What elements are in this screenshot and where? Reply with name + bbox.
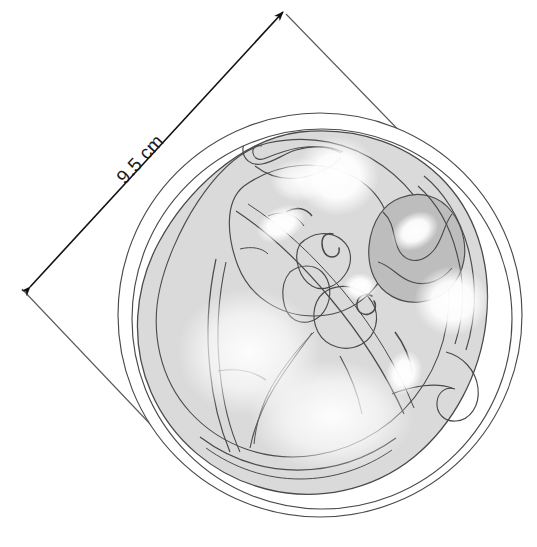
highlight-top-wash: [270, 158, 330, 202]
highlight-right-round: [414, 266, 490, 336]
highlight-bottom-broad: [250, 360, 414, 472]
highlight-mid-small: [343, 273, 377, 301]
anatomical-diagram-svg: 9.5 cm: [0, 0, 537, 547]
figure-root: 9.5 cm: [0, 0, 537, 547]
